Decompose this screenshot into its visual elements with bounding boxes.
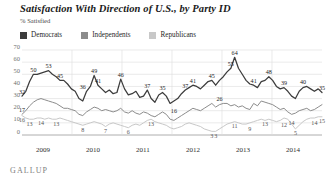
x-tick-label: 2014 — [286, 146, 300, 154]
data-label: 13 — [27, 121, 33, 127]
gallup-logo: GALLUP — [10, 166, 48, 175]
data-label: 11 — [232, 123, 238, 129]
data-label: 12 — [281, 122, 287, 128]
data-label: 45 — [57, 73, 63, 79]
data-label: 5 — [294, 130, 297, 136]
legend-swatch-icon — [81, 32, 88, 39]
data-label: 15 — [319, 118, 325, 124]
data-label: 16 — [171, 108, 177, 114]
y-tick-label: 40 — [14, 79, 20, 86]
legend-label: Independents — [92, 31, 130, 39]
data-label: 55 — [228, 61, 234, 67]
y-tick-label: 70 — [14, 43, 20, 50]
data-label: 14 — [38, 120, 44, 126]
data-label: 50 — [30, 67, 36, 73]
legend-label: Democrats — [31, 31, 62, 39]
data-label: 41 — [95, 78, 101, 84]
data-label: 3 — [214, 133, 217, 139]
data-label: 8 — [81, 127, 84, 133]
data-label: 13 — [262, 121, 268, 127]
legend-swatch-icon — [149, 32, 156, 39]
data-label: 49 — [91, 68, 97, 74]
plot-area: 3250534536494146373537414555644148394035… — [22, 50, 322, 135]
data-label: 14 — [289, 120, 295, 126]
data-label: 37 — [144, 83, 150, 89]
data-label: 37 — [182, 83, 188, 89]
data-label: 41 — [190, 78, 196, 84]
x-axis-labels: 200920102011201220132014 — [0, 146, 333, 158]
legend-item-democrats: Democrats — [20, 31, 62, 39]
data-label: 16 — [19, 117, 25, 123]
x-tick-label: 2013 — [236, 146, 250, 154]
data-label: 13 — [148, 121, 154, 127]
data-label: 45 — [209, 73, 215, 79]
legend-item-independents: Independents — [81, 31, 130, 39]
data-label: 35 — [159, 85, 165, 91]
data-label: 36 — [80, 84, 86, 90]
data-label: 46 — [118, 72, 124, 78]
data-label: 7 — [104, 128, 107, 134]
y-tick-label: 0 — [17, 128, 20, 135]
y-axis-labels: 010203040506070 — [0, 46, 20, 139]
data-label: 17 — [19, 107, 25, 113]
x-tick-label: 2011 — [136, 146, 150, 154]
y-tick-label: 50 — [14, 67, 20, 74]
data-label: 35 — [319, 85, 325, 91]
data-label: 6 — [127, 129, 130, 135]
data-label: 13 — [53, 121, 59, 127]
legend-label: Republicans — [160, 31, 196, 39]
legend-swatch-icon — [20, 32, 27, 39]
chart-subtitle: % Satisfied — [20, 17, 50, 24]
data-label: 39 — [281, 80, 287, 86]
data-label: 9 — [248, 126, 251, 132]
data-label: 14 — [311, 120, 317, 126]
data-label: 48 — [266, 69, 272, 75]
page-title: Satisfaction With Direction of U.S., by … — [20, 3, 231, 14]
data-label: 3 — [210, 133, 213, 139]
data-label: 32 — [19, 89, 25, 95]
x-tick-label: 2010 — [86, 146, 100, 154]
chart-legend: DemocratsIndependentsRepublicans — [20, 31, 215, 39]
data-label: 53 — [46, 63, 52, 69]
x-tick-label: 2009 — [36, 146, 50, 154]
data-label: 26 — [216, 96, 222, 102]
x-tick-label: 2012 — [186, 146, 200, 154]
line-chart-svg: 3250534536494146373537414555644148394035… — [22, 50, 322, 135]
y-tick-label: 60 — [14, 55, 20, 62]
legend-item-republicans: Republicans — [149, 31, 196, 39]
gallup-chart: Satisfaction With Direction of U.S., by … — [0, 0, 333, 183]
data-label: 64 — [232, 50, 238, 56]
data-label: 41 — [251, 78, 257, 84]
data-label: 40 — [300, 79, 306, 85]
